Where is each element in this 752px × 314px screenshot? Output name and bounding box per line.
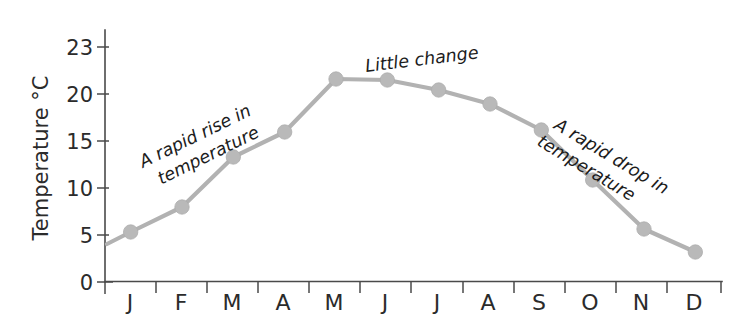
x-tick-label-jun: J: [380, 290, 389, 314]
x-tick-label-apr: A: [275, 290, 290, 314]
x-axis-ticks: [105, 282, 721, 294]
data-point: [380, 73, 394, 87]
chart-canvas: 0 5 10 15 20 23 Temperature °C: [0, 0, 752, 314]
y-tick-label-10: 10: [66, 177, 93, 201]
data-point: [175, 200, 189, 214]
x-axis-tick-labels: J F M A M J J A S O N D: [125, 290, 703, 314]
y-tick-label-5: 5: [80, 224, 93, 248]
data-point: [688, 245, 702, 259]
y-axis-tick-labels: 0 5 10 15 20 23: [66, 36, 93, 295]
x-tick-label-feb: F: [175, 290, 188, 314]
annotation-rapid-drop: A rapid drop in temperature: [534, 111, 672, 218]
x-tick-label-mar: M: [223, 290, 242, 314]
data-point: [329, 72, 343, 86]
annotation-rapid-rise: A rapid rise in temperature: [135, 100, 264, 192]
x-tick-label-sep: S: [532, 290, 546, 314]
x-tick-label-jan: J: [125, 290, 134, 314]
temperature-line-chart: 0 5 10 15 20 23 Temperature °C: [0, 0, 752, 314]
annotation-little-change: Little change: [364, 42, 480, 76]
y-tick-label-20: 20: [66, 83, 93, 107]
x-tick-label-jul: J: [432, 290, 441, 314]
x-tick-label-may: M: [325, 290, 344, 314]
y-tick-label-15: 15: [66, 130, 93, 154]
x-tick-label-dec: D: [686, 290, 703, 314]
x-tick-label-aug: A: [480, 290, 495, 314]
data-point: [483, 97, 497, 111]
x-tick-label-oct: O: [581, 290, 598, 314]
x-tick-label-nov: N: [633, 290, 649, 314]
annotation-little-change-line1: Little change: [364, 42, 480, 76]
data-point: [431, 83, 445, 97]
data-point: [277, 125, 291, 139]
y-tick-label-23: 23: [66, 36, 93, 60]
data-point: [123, 225, 137, 239]
data-point: [637, 222, 651, 236]
y-axis-title: Temperature °C: [29, 76, 53, 242]
y-tick-label-0: 0: [80, 271, 93, 295]
